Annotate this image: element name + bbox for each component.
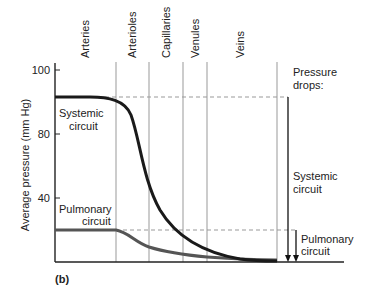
pulmonary-curve: [55, 230, 277, 260]
reference-lines: [105, 97, 296, 230]
drop-pulmonary-line1: Pulmonary: [301, 233, 354, 245]
y-axis-label: Average pressure (mm Hg): [19, 99, 31, 231]
vessel-label-veins: Veins: [234, 31, 246, 58]
vessel-label-venules: Venules: [189, 18, 201, 58]
panel-label: (b): [55, 273, 69, 285]
y-tick-80: 80: [38, 128, 50, 140]
pressure-drops-title-line2: drops:: [293, 79, 324, 91]
vessel-label-capillaries: Capillaries: [160, 6, 172, 58]
systemic-label-line2: circuit: [69, 120, 98, 132]
drop-systemic-line2: circuit: [293, 183, 322, 195]
systemic-label-line1: Systemic: [59, 107, 104, 119]
pulmonary-label-line2: circuit: [82, 215, 111, 227]
vessel-label-arteries: Arteries: [79, 20, 91, 58]
pressure-diagram: Arteries Arterioles Capillaries Venules …: [0, 0, 371, 294]
drop-systemic-line1: Systemic: [293, 170, 338, 182]
pressure-drops-title-line1: Pressure: [293, 66, 337, 78]
drop-pulmonary-line2: circuit: [301, 245, 330, 257]
y-tick-40: 40: [38, 192, 50, 204]
vessel-labels: Arteries Arterioles Capillaries Venules …: [79, 6, 246, 58]
vessel-dividers: [116, 62, 277, 262]
y-tick-100: 100: [32, 64, 50, 76]
pulmonary-label-line1: Pulmonary: [59, 203, 112, 215]
vessel-label-arterioles: Arterioles: [126, 11, 138, 58]
